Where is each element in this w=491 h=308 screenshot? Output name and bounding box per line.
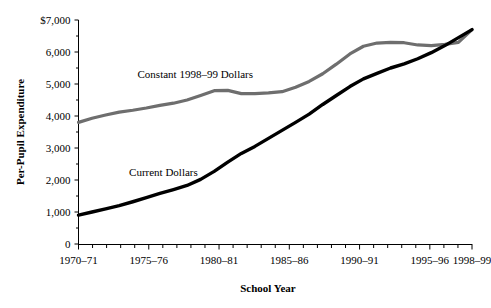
y-axis-title: Per-Pupil Expenditure [14, 79, 26, 185]
x-tick-label: 1985–86 [270, 254, 309, 266]
x-tick-label: 1998–99 [453, 254, 491, 266]
y-tick-label: 0 [65, 238, 71, 250]
y-tick-label: 3,000 [46, 142, 71, 154]
y-tick-label: $7,000 [40, 14, 71, 26]
y-tick-label: 6,000 [46, 46, 71, 58]
chart-series-annotations: Constant 1998–99 DollarsCurrent Dollars [129, 68, 253, 178]
series-label-current-dollars: Current Dollars [129, 166, 198, 178]
x-tick-label: 1970–71 [59, 254, 98, 266]
y-tick-label: 1,000 [46, 206, 71, 218]
x-tick-label: 1975–76 [130, 254, 169, 266]
chart-figure: 01,0002,0003,0004,0005,0006,000$7,000 19… [0, 0, 491, 308]
x-tick-label: 1980–81 [200, 254, 239, 266]
y-tick-label: 4,000 [46, 110, 71, 122]
x-tick-label: 1990–91 [340, 254, 379, 266]
y-tick-label: 5,000 [46, 78, 71, 90]
series-label-constant-dollars: Constant 1998–99 Dollars [138, 68, 254, 80]
x-axis-title: School Year [240, 282, 296, 294]
y-axis-ticks [75, 20, 79, 244]
per-pupil-expenditure-line-chart: 01,0002,0003,0004,0005,0006,000$7,000 19… [0, 0, 491, 308]
y-axis-tick-labels: 01,0002,0003,0004,0005,0006,000$7,000 [40, 14, 71, 250]
chart-series-lines [79, 30, 473, 216]
y-tick-label: 2,000 [46, 174, 71, 186]
x-axis-tick-labels: 1970–711975–761980–811985–861990–911995–… [59, 254, 491, 266]
series-line-current-dollars [79, 30, 473, 216]
chart-axes [79, 20, 473, 245]
x-tick-label: 1995–96 [411, 254, 450, 266]
